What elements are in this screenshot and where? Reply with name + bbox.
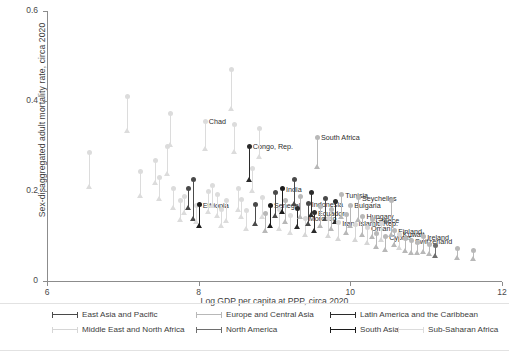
data-point-label: Chad (209, 117, 226, 126)
legend-label: South Asia (360, 325, 399, 334)
data-point-circle-marker (229, 67, 234, 72)
legend-item-south-asia[interactable]: South Asia (330, 325, 399, 334)
data-point-triangle-marker (164, 171, 170, 176)
data-point-triangle-marker (156, 196, 162, 201)
data-point-circle-marker (397, 232, 402, 237)
data-point-triangle-marker (177, 217, 183, 222)
data-point-circle-marker (125, 94, 130, 99)
chart-legend: East Asia and PacificEurope and Central … (0, 310, 509, 350)
x-axis-title: Log GDP per capita at PPP, circa 2020 (47, 296, 502, 306)
data-point-triangle-marker (209, 203, 215, 208)
data-point-circle-marker (409, 238, 414, 243)
legend-label: Sub-Saharan Africa (428, 325, 498, 334)
data-point-circle-marker (138, 169, 143, 174)
y-tick-label: 0.6 (8, 5, 38, 15)
data-point-triangle-marker (287, 230, 293, 235)
data-point-triangle-marker (205, 209, 211, 214)
data-point-circle-marker (203, 119, 208, 124)
data-point-triangle-marker (382, 247, 388, 252)
data-point-triangle-marker (276, 226, 282, 231)
data-point-triangle-marker (328, 226, 334, 231)
data-point-circle-marker (244, 208, 249, 213)
legend-label: Latin America and the Caribbean (360, 310, 478, 319)
data-point-circle-marker (344, 212, 349, 217)
data-point-circle-marker (253, 202, 258, 207)
data-point-triangle-marker (137, 193, 143, 198)
data-point-circle-marker (191, 177, 196, 182)
data-point-triangle-marker (202, 146, 208, 151)
data-point-triangle-marker (335, 236, 341, 241)
data-point-label: Ireland (427, 233, 449, 242)
data-point-triangle-marker (170, 205, 176, 210)
data-point-circle-marker (379, 221, 384, 226)
legend-item-middle-east-and-north-africa[interactable]: Middle East and North Africa (52, 325, 185, 334)
data-point-circle-marker (250, 166, 255, 171)
legend-swatch-icon (196, 326, 222, 334)
legend-item-latin-america-and-the-caribbean[interactable]: Latin America and the Caribbean (330, 310, 478, 319)
data-point-circle-marker (318, 204, 323, 209)
data-point-triangle-marker (359, 232, 365, 237)
data-point-triangle-marker (256, 154, 262, 159)
data-point-circle-marker (315, 135, 320, 140)
data-point-triangle-marker (124, 128, 130, 133)
data-point-triangle-marker (302, 232, 308, 237)
data-point-triangle-marker (249, 188, 255, 193)
data-point-triangle-marker (272, 213, 278, 218)
data-point-circle-marker (219, 207, 224, 212)
data-point-triangle-marker (314, 164, 320, 169)
data-point-circle-marker (239, 197, 244, 202)
data-point-circle-marker (288, 213, 293, 218)
data-point-circle-marker (206, 189, 211, 194)
x-tick-mark (502, 282, 503, 286)
legend-top-divider (0, 303, 509, 304)
data-point-triangle-marker (86, 184, 92, 189)
data-point-triangle-marker (325, 233, 331, 238)
legend-swatch-icon (52, 326, 78, 334)
legend-row: Middle East and North AfricaNorth Americ… (0, 325, 509, 339)
y-axis-title: Sex-disaggregated adult mortality rate, … (37, 20, 47, 220)
data-point-triangle-marker (432, 253, 438, 258)
legend-swatch-icon (196, 311, 222, 319)
data-point-triangle-marker (470, 256, 476, 261)
data-point-triangle-marker (343, 230, 349, 235)
legend-item-east-asia-and-pacific[interactable]: East Asia and Pacific (52, 310, 158, 319)
data-point-circle-marker (273, 190, 278, 195)
data-point-circle-marker (312, 210, 317, 215)
y-tick-label: 0.4 (8, 95, 38, 105)
data-point-circle-marker (215, 192, 220, 197)
legend-swatch-icon (330, 326, 356, 334)
data-point-triangle-marker (218, 223, 224, 228)
data-point-triangle-marker (214, 213, 220, 218)
data-point-triangle-marker (252, 221, 258, 226)
data-point-circle-marker (168, 111, 173, 116)
data-point-circle-marker (427, 242, 432, 247)
legend-bottom-divider (0, 350, 509, 351)
data-point-circle-marker (389, 198, 394, 203)
data-point-circle-marker (455, 246, 460, 251)
data-point-triangle-marker (167, 142, 173, 147)
legend-swatch-icon (52, 311, 78, 319)
y-tick-label: 0.2 (8, 185, 38, 195)
data-point-triangle-marker (454, 255, 460, 260)
legend-item-sub-saharan-africa[interactable]: Sub-Saharan Africa (398, 325, 498, 334)
data-point-triangle-marker (196, 223, 202, 228)
y-tick-label: 0 (8, 275, 38, 285)
data-point-circle-marker (197, 202, 202, 207)
legend-item-north-america[interactable]: North America (196, 325, 277, 334)
legend-item-europe-and-central-asia[interactable]: Europe and Central Asia (196, 310, 314, 319)
legend-swatch-icon (330, 311, 356, 319)
data-point-circle-marker (268, 203, 273, 208)
data-point-triangle-marker (228, 106, 234, 111)
data-point-triangle-marker (231, 149, 237, 154)
data-point-triangle-marker (238, 214, 244, 219)
legend-row: East Asia and PacificEurope and Central … (0, 310, 509, 324)
legend-label: East Asia and Pacific (82, 310, 158, 319)
data-point-triangle-marker (185, 205, 191, 210)
data-point-triangle-marker (364, 240, 370, 245)
data-point-triangle-marker (294, 224, 300, 229)
data-point-circle-marker (182, 194, 187, 199)
legend-label: Middle East and North Africa (82, 325, 185, 334)
data-point-label: Indonesia (312, 200, 343, 209)
data-point-circle-marker (153, 158, 158, 163)
data-point-circle-marker (87, 150, 92, 155)
